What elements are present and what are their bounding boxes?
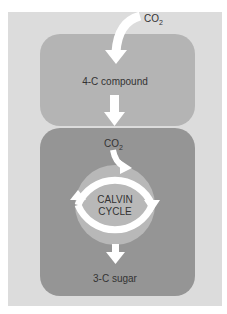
calvin-label: CALVIN	[97, 194, 132, 205]
four-carbon-compound-label: 4-C compound	[82, 76, 148, 87]
three-carbon-sugar-label: 3-C sugar	[93, 273, 138, 284]
co2-input-label: CO2	[144, 13, 163, 26]
cycle-label: CYCLE	[98, 206, 132, 217]
c4-diagram: CO2 4-C compound CO2 CALVIN CYCLE 3-C su…	[0, 0, 227, 314]
